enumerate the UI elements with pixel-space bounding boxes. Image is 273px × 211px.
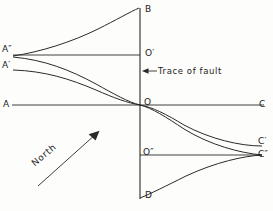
fault-trace-diagram: A A″ A′ B O′ O O″ D C C′ C″ Trace of fau… xyxy=(0,0,273,211)
label-point-O: O xyxy=(144,97,151,107)
label-point-A: A xyxy=(3,99,9,109)
curve-A2-to-B xyxy=(13,8,139,56)
label-point-B: B xyxy=(145,4,151,14)
diagram-canvas xyxy=(0,0,273,211)
label-point-A-prime: A′ xyxy=(2,60,11,70)
trace-of-fault-annotation: Trace of fault xyxy=(158,66,222,76)
north-arrow-shaft xyxy=(38,134,96,186)
left-arrow-icon xyxy=(142,68,149,73)
label-point-D: D xyxy=(145,190,152,200)
label-point-O-prime: O′ xyxy=(145,48,155,58)
label-point-A-double-prime: A″ xyxy=(2,44,12,54)
curve-A1-to-O-to-C1 xyxy=(13,70,262,146)
label-point-C-prime: C′ xyxy=(258,136,267,146)
label-point-C-double-prime: C″ xyxy=(258,149,268,159)
curve-D-to-C2 xyxy=(140,155,262,198)
label-point-O-double-prime: O″ xyxy=(143,147,154,157)
label-point-C: C xyxy=(259,99,265,109)
